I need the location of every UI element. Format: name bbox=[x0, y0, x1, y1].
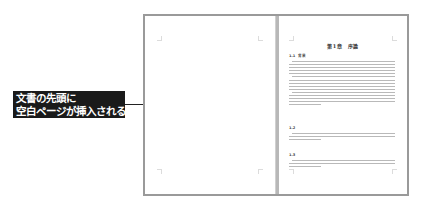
crop-mark-icon bbox=[258, 36, 263, 41]
callout-label: 文書の先頭に 空白ページが挿入される bbox=[13, 91, 125, 118]
section-1-3: 1.3 bbox=[289, 153, 395, 169]
text-line bbox=[289, 98, 395, 99]
text-line bbox=[292, 133, 395, 134]
text-line bbox=[289, 64, 395, 65]
text-line bbox=[289, 70, 395, 71]
section-heading: 1.2 bbox=[289, 126, 395, 131]
text-line bbox=[289, 163, 395, 164]
crop-mark-icon bbox=[157, 169, 162, 174]
callout-line-1: 文書の先頭に bbox=[16, 92, 125, 105]
section-heading: 1.3 bbox=[289, 153, 395, 158]
text-line bbox=[289, 73, 395, 74]
text-line bbox=[289, 67, 395, 68]
crop-mark-icon bbox=[258, 169, 263, 174]
chapter-title: 第1章 序論 bbox=[279, 42, 407, 49]
text-line bbox=[292, 61, 395, 62]
crop-mark-icon bbox=[289, 169, 294, 174]
text-line bbox=[292, 92, 395, 93]
text-line bbox=[289, 95, 395, 96]
text-line bbox=[289, 139, 321, 140]
text-line bbox=[289, 104, 321, 105]
page-spread-preview: 第1章 序論 1.1 背景 1.2 bbox=[143, 14, 409, 196]
text-line bbox=[292, 76, 395, 77]
crop-mark-icon bbox=[157, 36, 162, 41]
blank-page bbox=[145, 16, 275, 194]
content-page: 第1章 序論 1.1 背景 1.2 bbox=[279, 16, 407, 194]
text-line bbox=[289, 80, 395, 81]
text-line bbox=[292, 160, 395, 161]
callout-line-2: 空白ページが挿入される bbox=[16, 105, 125, 118]
text-line bbox=[289, 166, 321, 167]
text-line bbox=[289, 101, 395, 102]
section-heading: 1.1 背景 bbox=[289, 54, 395, 59]
text-line bbox=[289, 86, 395, 87]
section-1-2: 1.2 bbox=[289, 126, 395, 142]
text-line bbox=[289, 89, 395, 90]
text-line bbox=[289, 136, 395, 137]
crop-mark-icon bbox=[392, 36, 397, 41]
section-1-1: 1.1 背景 bbox=[289, 54, 395, 107]
crop-mark-icon bbox=[289, 36, 294, 41]
text-line bbox=[289, 83, 395, 84]
crop-mark-icon bbox=[392, 169, 397, 174]
